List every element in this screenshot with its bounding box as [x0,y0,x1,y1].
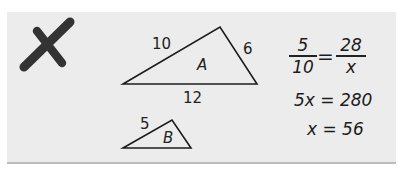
left-fraction: 5 10 [289,35,317,77]
left-denominator: 10 [290,57,316,77]
proportion-equals-sign: = [317,46,334,66]
triangle-b-name-label: B [163,131,173,146]
right-numerator: 28 [338,35,364,55]
right-denominator: x [344,57,358,77]
triangle-b-shape [0,0,398,175]
triangle-b-side-left-label: 5 [140,117,150,132]
left-numerator: 5 [296,35,311,55]
right-fraction: 28 x [336,35,366,77]
equation-step-2: x = 56 [307,121,364,138]
equation-step-1: 5x = 280 [294,92,372,109]
